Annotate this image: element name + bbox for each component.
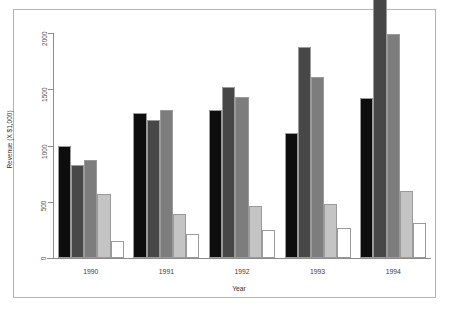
bar bbox=[160, 110, 173, 259]
x-axis-group-label: 1991 bbox=[136, 268, 196, 275]
bar bbox=[97, 194, 110, 258]
bar bbox=[186, 234, 199, 258]
x-axis-group-label: 1994 bbox=[363, 268, 423, 275]
bar bbox=[311, 77, 324, 258]
bar bbox=[209, 110, 222, 259]
bar bbox=[71, 165, 84, 258]
y-axis-tick-label: 1000 bbox=[41, 144, 48, 158]
bar bbox=[400, 191, 413, 259]
bar bbox=[262, 230, 275, 258]
bar bbox=[147, 120, 160, 258]
y-axis-tick-label-wrap: 2000 bbox=[0, 28, 44, 38]
y-axis-tick-mark bbox=[48, 33, 53, 34]
x-axis-group-label: 1992 bbox=[212, 268, 272, 275]
bar bbox=[337, 228, 350, 258]
y-axis-tick-label-wrap: 0 bbox=[0, 253, 44, 263]
bar-chart: Revenue (X $1,000) Year 0500100015002000… bbox=[0, 0, 450, 313]
y-axis-tick-label-wrap: 500 bbox=[0, 197, 44, 207]
x-axis-group-label: 1990 bbox=[61, 268, 121, 275]
y-axis-tick-label: 2000 bbox=[41, 32, 48, 46]
x-axis-group-label: 1993 bbox=[288, 268, 348, 275]
y-axis-tick-label-wrap: 1000 bbox=[0, 141, 44, 151]
y-axis-tick-mark bbox=[48, 89, 53, 90]
bar bbox=[373, 0, 386, 258]
x-axis-title: Year bbox=[47, 285, 431, 292]
bar bbox=[235, 97, 248, 258]
bar bbox=[285, 133, 298, 258]
y-axis-tick-mark bbox=[48, 202, 53, 203]
y-axis-tick-label: 1500 bbox=[41, 88, 48, 102]
y-axis-line bbox=[53, 33, 54, 259]
y-axis-tick-mark bbox=[48, 258, 53, 259]
bar bbox=[298, 47, 311, 259]
bar bbox=[173, 214, 186, 258]
y-axis-tick-mark bbox=[48, 146, 53, 147]
x-axis-line bbox=[47, 258, 431, 259]
y-axis-tick-label: 0 bbox=[41, 257, 48, 261]
bar bbox=[413, 223, 426, 258]
y-axis-tick-label: 500 bbox=[41, 200, 48, 211]
bar bbox=[84, 160, 97, 258]
bar bbox=[222, 87, 235, 258]
bar bbox=[324, 204, 337, 258]
bar bbox=[249, 206, 262, 258]
bar bbox=[111, 241, 124, 258]
bar bbox=[58, 146, 71, 259]
bar bbox=[360, 98, 373, 258]
bar bbox=[387, 34, 400, 258]
bar bbox=[133, 113, 146, 258]
y-axis-tick-label-wrap: 1500 bbox=[0, 84, 44, 94]
